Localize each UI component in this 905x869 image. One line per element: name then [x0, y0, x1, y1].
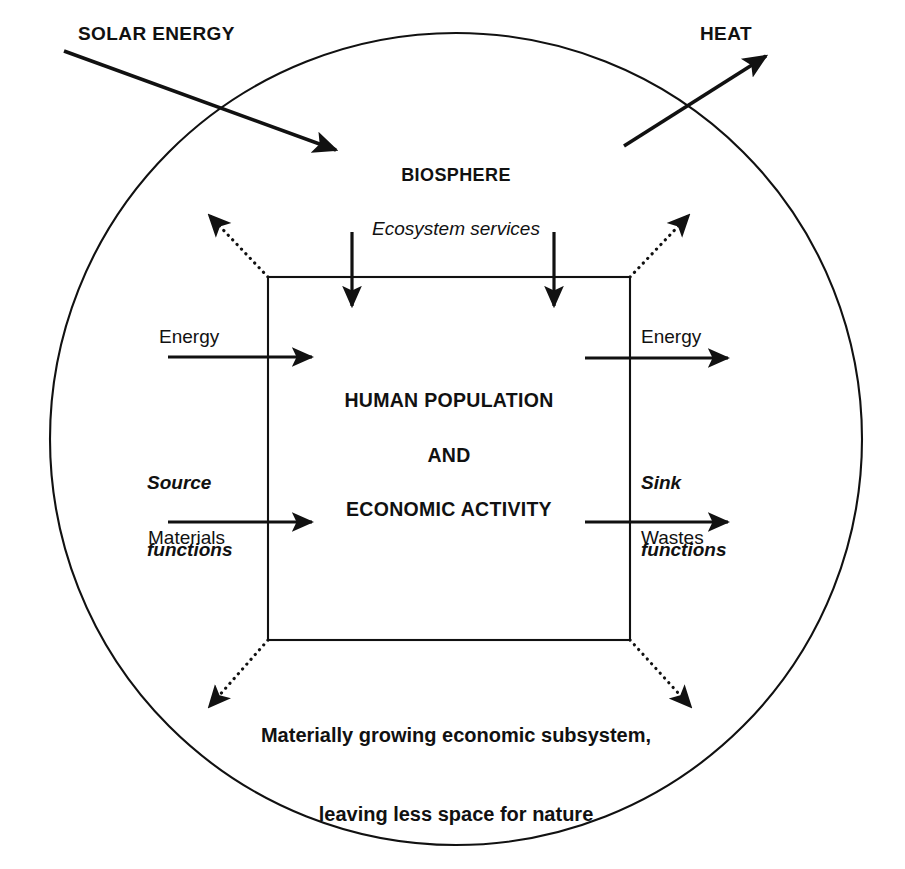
inner-system-line-2: AND — [427, 444, 470, 466]
diagram-caption: Materially growing economic subsystem, l… — [261, 669, 651, 869]
source-functions-line-2: functions — [147, 539, 233, 561]
inner-system-line-1: HUMAN POPULATION — [344, 389, 553, 411]
growth-arrow-top-left — [210, 216, 268, 277]
caption-line-1: Materially growing economic subsystem, — [261, 722, 651, 748]
biosphere-economy-diagram: HUMAN POPULATION AND ECONOMIC ACTIVITY S… — [0, 0, 905, 869]
caption-line-2: leaving less space for nature — [261, 801, 651, 827]
solar-energy-label: SOLAR ENERGY — [78, 23, 235, 45]
source-functions-line-1: Source — [147, 472, 233, 494]
sink-functions-line-2: functions — [641, 539, 727, 561]
heat-label: HEAT — [700, 23, 752, 45]
energy-inflow-label: Energy — [159, 326, 219, 348]
source-functions-label: Source functions — [147, 427, 233, 606]
energy-outflow-label: Energy — [641, 326, 701, 348]
sink-functions-line-1: Sink — [641, 472, 727, 494]
ecosystem-services-label: Ecosystem services — [372, 218, 540, 240]
inner-system-line-3: ECONOMIC ACTIVITY — [346, 498, 552, 520]
growth-arrow-bottom-left — [210, 640, 268, 706]
biosphere-label: BIOSPHERE — [401, 165, 511, 186]
heat-arrow — [624, 56, 766, 146]
sink-functions-label: Sink functions — [641, 427, 727, 606]
growth-arrow-top-right — [630, 216, 688, 277]
